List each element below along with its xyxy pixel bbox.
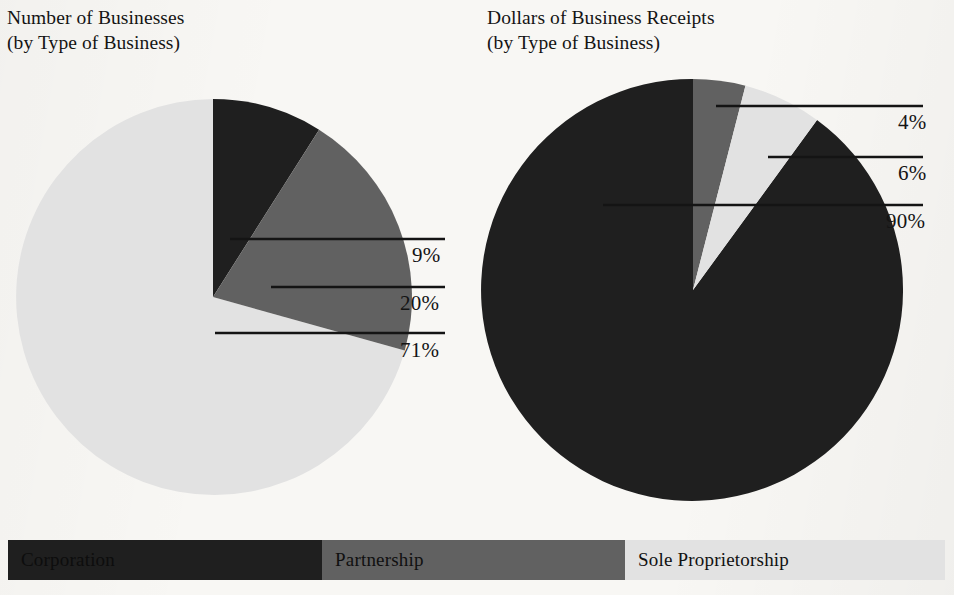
pie-label-6-percent: 6% [898,163,926,184]
pie-slice-corporation[interactable] [481,79,903,501]
pie-label-4-percent: 4% [898,112,926,133]
pie-chart-dollars-of-business-receipts [476,55,954,525]
legend-item-partnership[interactable]: Partnership [322,540,625,580]
chart-title-number-of-businesses: Number of Businesses (by Type of Busines… [7,5,184,55]
legend-label-sole-proprietorship: Sole Proprietorship [625,549,789,571]
pie-chart-number-of-businesses [0,55,476,525]
legend-item-corporation[interactable]: Corporation [8,540,322,580]
pie-label-71-percent: 71% [400,340,439,361]
pie-label-20-percent: 20% [400,293,439,314]
legend-label-corporation: Corporation [8,549,115,571]
pie-label-9-percent: 9% [412,245,440,266]
legend-item-sole-proprietorship[interactable]: Sole Proprietorship [625,540,945,580]
legend-label-partnership: Partnership [322,549,424,571]
pie-label-90-percent: 90% [886,211,925,232]
chart-title-dollars-of-business-receipts: Dollars of Business Receipts (by Type of… [487,5,715,55]
legend: Corporation Partnership Sole Proprietors… [8,540,945,580]
